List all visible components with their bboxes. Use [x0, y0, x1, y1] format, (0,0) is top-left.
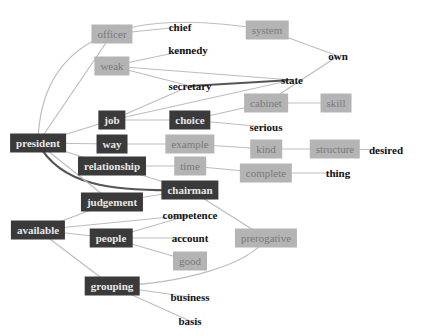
node-choice: choice [169, 111, 210, 130]
node-account: account [172, 233, 209, 244]
node-judgement: judgement [81, 193, 143, 212]
edge-layer [0, 0, 426, 336]
node-grouping: grouping [85, 277, 140, 296]
node-skill: skill [321, 94, 352, 113]
node-prerogative: prerogative [235, 229, 297, 248]
node-structure: structure [310, 140, 360, 159]
node-kind: kind [250, 140, 282, 159]
node-officer: officer [91, 25, 132, 44]
node-time: time [174, 157, 206, 176]
node-president: president [10, 134, 66, 153]
node-way: way [97, 135, 128, 154]
node-people: people [90, 229, 133, 248]
node-secretary: secretary [168, 81, 211, 92]
node-kennedy: kennedy [168, 45, 208, 56]
node-cabinet: cabinet [244, 94, 288, 113]
node-own: own [328, 51, 348, 62]
node-chairman: chairman [161, 181, 218, 200]
node-basis: basis [178, 316, 201, 327]
node-serious: serious [250, 122, 283, 133]
node-good: good [173, 252, 207, 271]
node-complete: complete [240, 164, 292, 183]
node-relationship: relationship [78, 157, 146, 176]
node-available: available [11, 221, 65, 240]
node-desired: desired [369, 145, 403, 156]
node-system: system [246, 21, 289, 40]
node-weak: weak [94, 57, 129, 76]
node-example: example [165, 135, 214, 154]
node-thing: thing [326, 168, 350, 179]
node-job: job [98, 111, 125, 130]
node-competence: competence [163, 210, 218, 221]
node-chief: chief [169, 22, 192, 33]
node-state: state [281, 75, 303, 86]
node-business: business [170, 292, 209, 303]
